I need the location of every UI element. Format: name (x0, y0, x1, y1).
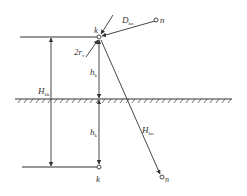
node-n-top (154, 18, 158, 22)
label-n-bottom: n (165, 175, 169, 184)
label-k-top: k (94, 25, 99, 35)
label-H-kn: Hkn (141, 125, 154, 136)
label-n-top: n (160, 15, 165, 25)
incoming-arrow (101, 15, 113, 34)
diagram-canvas: k k n n Dkn 2rv Hkk hk hk Hkn (0, 0, 247, 196)
label-D-kn: Dkn (121, 15, 134, 26)
node-k-top (97, 35, 101, 39)
label-h-k-lower: hk (90, 127, 98, 138)
node-n-bottom (160, 175, 164, 179)
label-k-bottom: k (96, 174, 101, 184)
H-kn-line (101, 40, 160, 174)
radius-pointer (86, 40, 98, 57)
label-H-kk: Hkk (37, 86, 50, 97)
node-k-bottom (97, 165, 101, 169)
label-h-k-upper: hk (90, 67, 98, 78)
label-2r-v: 2rv (74, 47, 85, 58)
